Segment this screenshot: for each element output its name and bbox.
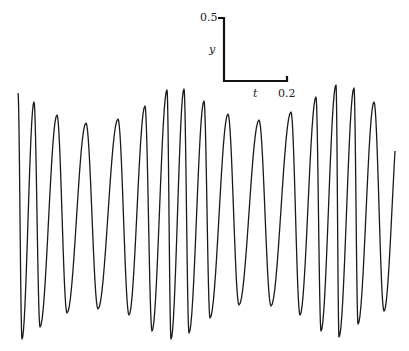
signal-trace bbox=[18, 85, 395, 339]
scale-bar bbox=[218, 18, 287, 81]
scale-y-value-label: 0.5 bbox=[200, 12, 218, 23]
oscillation-chart bbox=[0, 0, 409, 351]
scale-y-axis-label: y bbox=[209, 44, 215, 55]
scale-t-value-label: 0.2 bbox=[278, 88, 296, 99]
scale-t-axis-label: t bbox=[253, 88, 257, 99]
scale-bar-axes bbox=[218, 18, 287, 81]
